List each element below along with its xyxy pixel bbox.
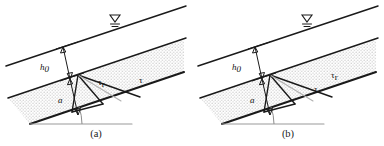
diagram-panel-a: h0 a τr τ xyxy=(0,0,192,146)
panel-caption-b: (b) xyxy=(192,128,384,139)
figure-root: h0 a τr τ xyxy=(0,0,384,146)
free-surface-symbol xyxy=(110,15,120,27)
dimension-arrowhead-a-bottom xyxy=(75,109,80,116)
dimension-line-h0 xyxy=(63,47,70,79)
label-a: a xyxy=(250,95,255,105)
label-h0: h0 xyxy=(40,62,50,74)
panel-caption-a: (a) xyxy=(0,128,192,139)
dimension-extension-h0-top xyxy=(248,42,270,49)
label-a: a xyxy=(58,95,63,105)
label-tau: τ xyxy=(314,84,318,94)
diagram-panel-b: h0 a τr τ xyxy=(192,0,384,146)
label-tau: τ xyxy=(139,75,143,85)
dimension-arrowhead-a-bottom xyxy=(267,109,272,116)
dimension-extension-h0-top xyxy=(56,42,78,49)
free-surface-symbol xyxy=(302,15,312,27)
label-h0: h0 xyxy=(232,62,242,74)
dimension-line-h0 xyxy=(255,47,262,79)
